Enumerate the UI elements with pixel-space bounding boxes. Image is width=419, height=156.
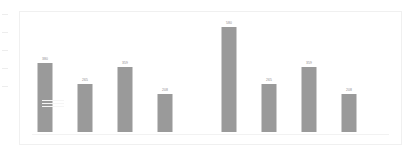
bar-group-2: 580265359208	[216, 12, 376, 132]
bar-slot: 208	[152, 12, 178, 132]
bar-slot: 265	[256, 12, 282, 132]
baseline-gridline	[32, 134, 389, 135]
bar-slot: 265	[72, 12, 98, 132]
left-margin-tick-marks	[0, 10, 16, 90]
bar-slot: 359	[112, 12, 138, 132]
chart-frame: 380265359208 580265359208	[19, 11, 402, 145]
bar[interactable]	[222, 27, 237, 132]
bar[interactable]	[342, 94, 357, 132]
bar[interactable]	[38, 63, 53, 132]
bar-slot: 208	[336, 12, 362, 132]
bar-group-1: 380265359208	[32, 12, 192, 132]
bar[interactable]	[78, 84, 93, 132]
bar-slot: 359	[296, 12, 322, 132]
bar-value-label: 580	[226, 22, 232, 25]
bar[interactable]	[158, 94, 173, 132]
bar-value-label: 380	[42, 58, 48, 61]
bar-value-label: 265	[266, 79, 272, 82]
bar-value-label: 208	[162, 89, 168, 92]
bar[interactable]	[118, 67, 133, 132]
bar-slot: 380	[32, 12, 58, 132]
bar-value-label: 265	[82, 79, 88, 82]
bar-slot: 580	[216, 12, 242, 132]
bar[interactable]	[302, 67, 317, 132]
bar[interactable]	[262, 84, 277, 132]
plot-area: 380265359208 580265359208	[20, 12, 401, 144]
bar-value-label: 359	[122, 62, 128, 65]
bar-value-label: 359	[306, 62, 312, 65]
bar-value-label: 208	[346, 89, 352, 92]
